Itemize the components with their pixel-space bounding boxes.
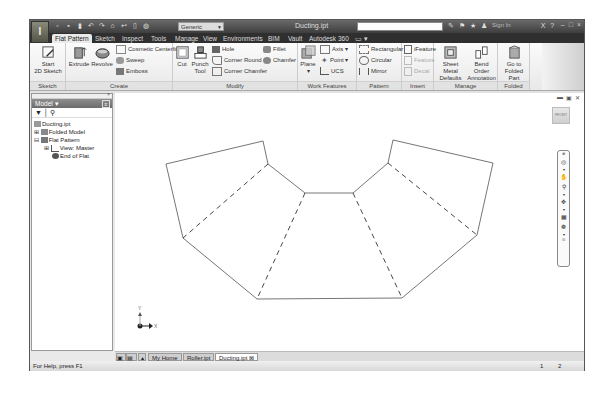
look-at-icon[interactable]: ▦ [558,212,569,222]
decal-icon [404,67,412,76]
minimize-button[interactable]: – [561,21,565,28]
filter-icon[interactable]: ▼ [35,109,42,116]
browser-menu-icon[interactable]: ≡ [102,100,110,108]
help-icon[interactable]: ? [550,22,554,30]
flat-pattern-icon [41,137,48,143]
tab-environments[interactable]: Environments [220,34,266,43]
window-controls: – □ × [561,21,581,28]
chamfer-button[interactable]: Chamfer [263,56,296,64]
ucs-button[interactable]: UCS [320,67,344,75]
tab-options-icon[interactable]: ▭ ▾ [352,34,371,43]
zoom-icon[interactable]: ⚲ [558,182,569,192]
star-icon[interactable]: ★ [470,22,476,30]
tree-item-end-of-flat[interactable]: End of Flat [32,152,112,160]
close-icon[interactable]: × [107,91,110,97]
view-cube[interactable]: FRONT [552,107,570,124]
feature-button[interactable]: Feature [404,56,435,65]
select-icon[interactable]: ▯ [131,22,138,29]
status-count-1: 1 [540,361,543,371]
sheet-metal-defaults-button[interactable]: Sheet Metal Defaults [435,45,466,82]
tab-list-icon[interactable]: ▴ [138,353,146,361]
document-title: Ducting.ipt [295,22,328,29]
doc-tab-my-home[interactable]: My Home [148,353,182,361]
material-icon[interactable]: ◍ [142,22,149,29]
cascade-icon[interactable]: ▤ [126,353,137,361]
decal-button[interactable]: Decal [404,67,429,76]
orbit-icon[interactable]: ✥ [558,197,569,207]
part-icon [34,121,41,127]
circular-pattern-button[interactable]: Circular [359,56,392,65]
sweep-button[interactable]: Sweep [116,56,144,64]
tree-item-folded-model[interactable]: ⊞ Folded Model [32,128,112,136]
user-icon[interactable]: ♟ [481,22,487,30]
hole-button[interactable]: Hole [212,45,234,53]
emboss-button[interactable]: Emboss [116,67,148,75]
tab-manage[interactable]: Manage [172,34,202,43]
restore-button[interactable]: □ [569,21,573,28]
tab-vault[interactable]: Vault [285,34,305,43]
close-button[interactable]: × [577,21,581,28]
browser-title[interactable]: Model [35,100,53,107]
panel-label-insert: Insert [402,81,433,90]
graphics-window[interactable]: ▬ ▣ ✕ FRONT ⊗ ◎ ▾ ✋ ⚲ ▾ ✥ ▾ ▦ ❁ [115,93,584,351]
undo-icon[interactable]: ↶ [87,22,94,29]
corner-chamfer-button[interactable]: Corner Chamfer [212,67,267,76]
extrude-button[interactable]: Extrude [68,45,90,68]
circular-pattern-icon [359,56,369,65]
tab-autodesk-360[interactable]: Autodesk 360 [306,34,352,43]
collapse-icon[interactable]: ⊟ [34,137,39,143]
binoculars-icon[interactable]: ✎ [448,22,454,30]
start-2d-sketch-button[interactable]: Start 2D Sketch [32,45,64,75]
ifeature-button[interactable]: iFeature [404,45,436,54]
expand-icon[interactable]: ⊞ [34,129,39,135]
tab-view[interactable]: View [200,34,220,43]
tab-bim[interactable]: BIM [265,34,283,43]
axis-button[interactable]: Axis ▾ [320,45,348,54]
steering-wheel-icon[interactable]: ◎ [558,157,569,167]
panel-label-pattern: Pattern [357,81,401,90]
help-x-icon[interactable]: X [541,22,546,30]
go-to-folded-part-button[interactable]: Go to Folded Part [499,45,529,82]
application-menu-button[interactable]: I [31,21,49,43]
panel-create: Extrude Revolve Cosmetic Centerline Swee… [66,43,173,90]
mirror-button[interactable]: Mirror [359,67,387,75]
plane-button[interactable]: Plane▾ [299,45,317,75]
sketch-icon [41,45,56,60]
home-icon[interactable]: ⌂ [109,22,116,29]
doc-tab-roller[interactable]: Roller.ipt [183,353,214,361]
tab-sketch[interactable]: Sketch [92,34,118,43]
cut-button[interactable]: Cut [174,45,190,68]
tab-flat-pattern[interactable]: Flat Pattern [52,34,92,43]
tab-inspect[interactable]: Inspect [119,34,146,43]
free-orbit-icon[interactable]: ❁ [558,222,569,232]
fillet-button[interactable]: Fillet [263,45,286,53]
point-button[interactable]: ✦Point ▾ [320,56,348,64]
exchange-icon[interactable]: ⚑ [459,22,465,30]
centerline-icon [116,45,126,54]
bend-order-annotation-button[interactable]: Bend Order Annotation [466,45,497,82]
panel-pattern: Rectangular Circular Mirror Pattern [357,43,402,90]
return-icon[interactable]: ↩ [120,22,127,29]
tree-item-view-master[interactable]: ⊞ View: Master [32,144,112,152]
pan-icon[interactable]: ✋ [558,172,569,182]
tab-tools[interactable]: Tools [148,34,169,43]
sign-in-link[interactable]: Sign In [492,22,511,30]
appearance-select[interactable]: Generic ▼ [178,22,224,31]
rectangular-pattern-button[interactable]: Rectangular [359,45,403,54]
navbar-options-icon[interactable]: ⊙ [558,237,569,243]
new-icon[interactable]: ▫ [54,22,61,29]
punch-tool-button[interactable]: Punch Tool [190,45,210,75]
revolve-button[interactable]: Revolve [90,45,114,68]
save-icon[interactable]: ▮ [76,22,83,29]
tree-item-flat-pattern[interactable]: ⊟ Flat Pattern [32,136,112,144]
corner-round-button[interactable]: Corner Round [212,56,262,65]
tile-icon[interactable]: ▣ [116,353,126,361]
open-icon[interactable]: ▪ [65,22,72,29]
doc-tab-ducting[interactable]: Ducting.ipt ⊠ [215,353,258,361]
search-input[interactable] [357,22,443,31]
redo-icon[interactable]: ↷ [98,22,105,29]
find-icon[interactable]: ⚲ [50,109,55,116]
tree-item-ducting[interactable]: Ducting.ipt [32,120,112,128]
expand-icon[interactable]: ⊞ [44,145,49,151]
status-bar: For Help, press F1 1 2 [30,361,584,371]
